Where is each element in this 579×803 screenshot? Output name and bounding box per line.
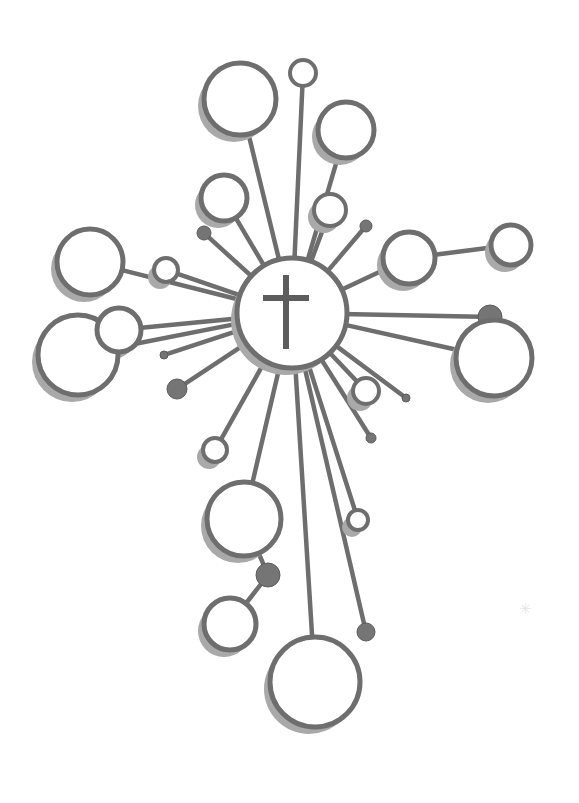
node-left-stub — [160, 351, 168, 359]
node-top-left-large — [204, 63, 276, 135]
node-right-big — [456, 320, 532, 396]
node-upper-right-small — [314, 194, 346, 226]
node-bottom-ring-small — [348, 510, 368, 530]
node-right-far-small — [491, 225, 531, 265]
node-lower-right-ring — [353, 378, 379, 404]
node-left-lower-ring — [203, 438, 227, 462]
node-upper-left-small — [201, 175, 247, 221]
node-left-mid-small — [97, 308, 141, 352]
node-left-lower-dot — [167, 379, 187, 399]
node-lower-right-stub — [402, 394, 410, 402]
artwork-canvas: ✳ — [0, 0, 579, 803]
node-top-tiny — [290, 60, 316, 86]
radiant-cross-emblem — [0, 0, 579, 803]
spoke-node-right-dark-dot — [342, 314, 480, 317]
node-bottom-largest — [270, 637, 360, 727]
node-bottom-small-ring — [204, 598, 256, 650]
node-top-right-medium — [318, 102, 374, 158]
node-left-upper-dot — [197, 226, 211, 240]
node-bottom-mid-dot — [256, 563, 280, 587]
node-right-medium — [383, 232, 435, 284]
central-medallion — [237, 258, 347, 368]
node-left-large — [57, 229, 123, 295]
node-bottom-left-large — [207, 482, 281, 556]
node-lower-right-dot — [366, 433, 376, 443]
paper-speck: ✳ — [519, 600, 533, 618]
node-upper-right-dot — [360, 220, 372, 232]
node-bottom-dot-right — [357, 623, 375, 641]
node-left-tiny — [154, 258, 178, 282]
